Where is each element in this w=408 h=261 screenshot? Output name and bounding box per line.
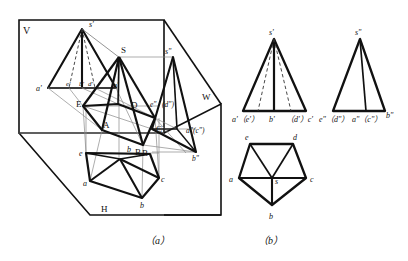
technical-drawing-canvas: V H W s' a' e' b' d' S a' A B C D E s" e… (0, 0, 408, 261)
label-w-apex-sdprime: s" (165, 47, 172, 56)
figure-b-front-view: s' a'（e'） b' （d'）c' (232, 28, 313, 124)
side-view-label-a-c: a"（c"） (352, 115, 382, 124)
label-h-b: b (140, 201, 144, 210)
figure-a-projection-box (19, 20, 221, 215)
ray-a-to-A (48, 88, 102, 130)
label-h-e: e (79, 149, 83, 158)
label-h-plane: H (101, 204, 108, 214)
figure-a-v-projection (48, 29, 120, 88)
front-view-label-a-e: a'（e'） (232, 115, 259, 124)
label-w-ddprime: (d") (162, 100, 174, 109)
label-v-plane: V (23, 25, 31, 36)
label-v-aprime: a' (36, 84, 42, 93)
top-view-label-d: d (293, 133, 298, 142)
figure-a-h-projection (86, 153, 159, 198)
label-w-plane: W (202, 92, 211, 102)
label-w-edprime: e" (150, 100, 157, 109)
top-view-label-b: b (269, 212, 273, 221)
top-view-edge-s-d (272, 144, 293, 178)
figure-a-w-projection (152, 57, 196, 152)
label-solid-B: B (142, 148, 148, 158)
label-w-bdprime: b" (192, 154, 200, 163)
label-solid-A: A (103, 120, 110, 130)
figure-b-side-view: s" e"（d"） a"（c"） b" (319, 28, 394, 124)
top-view-label-s: s (275, 177, 278, 186)
caption-figure-a: （a） (145, 235, 170, 246)
label-v-eprime: e' (66, 80, 71, 88)
front-view-hidden-edge-right (274, 39, 291, 111)
front-view-apex-label: s' (269, 28, 274, 37)
top-view-label-e: e (245, 133, 249, 142)
top-view-edge-s-e (250, 144, 272, 178)
label-h-a: a (83, 179, 87, 188)
label-solid-E: E (76, 99, 82, 109)
side-view-label-b: b" (386, 111, 394, 120)
top-view-label-c: c (310, 175, 314, 184)
label-solid-D: D (131, 100, 138, 110)
side-view-outline-triangle (333, 39, 385, 111)
ray-E-to-e (83, 106, 86, 153)
label-v-apex-sprime: s' (89, 20, 94, 29)
side-view-apex-label: s" (355, 28, 362, 37)
label-h-c: c (161, 175, 165, 184)
caption-figure-b: （b） (258, 235, 283, 246)
label-v-dprime: d' (88, 80, 94, 88)
figure-b-top-view: a b c d e s (229, 133, 314, 221)
label-v-bprime: b' (79, 80, 85, 88)
label-h-B-upper: B (135, 147, 141, 157)
label-solid-apex-S: S (121, 45, 126, 55)
label-h-b-upper: b (127, 145, 131, 154)
label-w-acprime: a"(c") (186, 126, 205, 135)
side-view-label-e-d: e"（d"） (319, 115, 349, 124)
front-view-hidden-edge-left (258, 39, 274, 111)
front-view-label-d-c: （d'）c' (286, 115, 313, 124)
label-solid-apex-mark: a' (113, 81, 119, 90)
label-solid-C: C (156, 124, 162, 134)
figure-page: V H W s' a' e' b' d' S a' A B C D E s" e… (0, 0, 408, 261)
top-view-label-a: a (229, 175, 233, 184)
front-view-label-b: b' (269, 115, 275, 124)
